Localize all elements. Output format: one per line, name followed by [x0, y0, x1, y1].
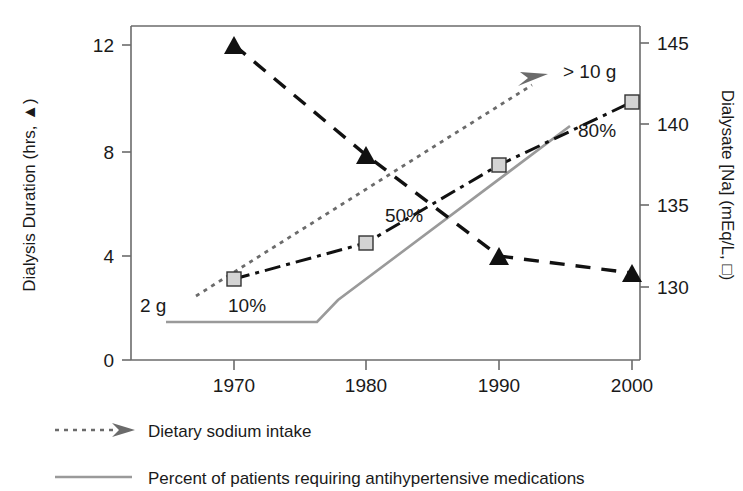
left-tick-label-12: 12: [93, 35, 114, 56]
dietary-sodium-dotted-line: [196, 85, 532, 296]
legend-item-percent-antihypertensive: Percent of patients requiring antihypert…: [55, 469, 585, 488]
left-tick-label-4: 4: [103, 246, 114, 267]
right-tick-label-135: 135: [657, 195, 689, 216]
annotation-percent-start: 10%: [228, 295, 266, 316]
right-tick-label-130: 130: [657, 277, 689, 298]
dialysate-marker-1970: [227, 272, 241, 286]
left-axis-title: Dialysis Duration (hrs, ▲): [20, 98, 39, 291]
duration-marker-1970: [224, 36, 244, 54]
legend-item-dietary-sodium: Dietary sodium intake: [55, 422, 311, 441]
legend-label-percent-antihypertensive: Percent of patients requiring antihypert…: [148, 469, 585, 488]
right-tick-label-145: 145: [657, 33, 689, 54]
dialysate-marker-2000: [625, 95, 639, 109]
right-axis-ticks: [640, 43, 649, 287]
duration-marker-2000: [622, 264, 642, 282]
dialysate-marker-1980: [359, 236, 373, 250]
left-tick-label-0: 0: [103, 350, 114, 371]
annotation-percent-mid: 50%: [385, 205, 423, 226]
left-tick-label-8: 8: [103, 142, 114, 163]
annotation-sodium-start: 2 g: [140, 295, 166, 316]
x-tick-label-2000: 2000: [611, 375, 653, 396]
x-tick-label-1990: 1990: [478, 375, 520, 396]
right-axis-title: Dialysate [Na] (mEq/L, □): [718, 90, 737, 281]
annotation-percent-end: 80%: [578, 120, 616, 141]
left-axis-ticks: [122, 45, 131, 360]
legend-label-dietary-sodium: Dietary sodium intake: [148, 422, 311, 441]
x-axis-ticks: [234, 360, 632, 370]
chart-legend: Dietary sodium intake Percent of patient…: [55, 422, 585, 488]
x-tick-label-1980: 1980: [345, 375, 387, 396]
x-tick-label-1970: 1970: [213, 375, 255, 396]
dietary-sodium-arrowhead: [518, 72, 548, 86]
dialysis-sodium-chart: 12 8 4 0 Dialysis Duration (hrs, ▲) 145 …: [0, 0, 743, 491]
dialysate-marker-1990: [492, 158, 506, 172]
legend-arrowhead-icon: [112, 423, 135, 437]
right-tick-label-140: 140: [657, 114, 689, 135]
chart-figure: 12 8 4 0 Dialysis Duration (hrs, ▲) 145 …: [0, 0, 743, 491]
annotation-sodium-end: > 10 g: [563, 61, 616, 82]
dialysate-sodium-line: [234, 102, 632, 279]
